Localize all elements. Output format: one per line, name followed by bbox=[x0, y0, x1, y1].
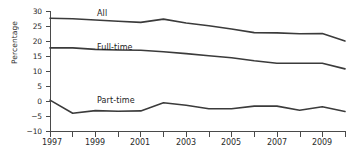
series-label-all: All bbox=[97, 9, 107, 18]
series-line-full-time bbox=[50, 48, 345, 69]
line-chart: Percentage 30 25 20 15 10 5 0 −5 −10 199… bbox=[0, 0, 357, 152]
series-label-part-time: Part-time bbox=[97, 96, 135, 105]
series-lines bbox=[0, 0, 357, 152]
series-line-all bbox=[50, 18, 345, 41]
series-label-full-time: Full-time bbox=[97, 43, 133, 52]
series-line-part-time bbox=[50, 100, 345, 113]
